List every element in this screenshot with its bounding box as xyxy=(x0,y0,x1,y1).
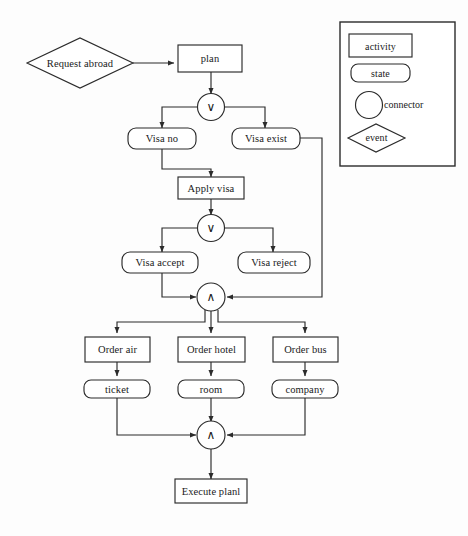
edge-company-to-and2 xyxy=(227,398,305,435)
edge-or2-to-visareject xyxy=(225,228,273,252)
edge-and1-to-orderair xyxy=(117,310,205,333)
shape-company[interactable] xyxy=(272,380,338,398)
shape-and-join-2[interactable] xyxy=(197,421,225,449)
edge-or2-to-visaaccept xyxy=(162,228,197,252)
shape-and-join-1[interactable] xyxy=(197,283,225,311)
flowchart-canvas xyxy=(0,0,468,536)
shape-visa-accept[interactable] xyxy=(122,252,198,273)
shape-plan[interactable] xyxy=(178,45,242,72)
legend-shape-connector xyxy=(356,92,383,119)
shape-room[interactable] xyxy=(178,380,244,398)
shape-execute-plan[interactable] xyxy=(175,479,247,503)
shape-request-abroad[interactable] xyxy=(27,38,133,88)
edge-visano-to-applyvisa xyxy=(162,149,211,177)
shape-or-split-1[interactable] xyxy=(198,94,225,121)
shape-order-hotel[interactable] xyxy=(178,337,245,362)
edge-or1-to-visaexist xyxy=(225,107,265,128)
edge-ticket-to-and2 xyxy=(117,398,196,435)
edge-visaaccept-to-and1 xyxy=(162,273,196,297)
shape-visa-no[interactable] xyxy=(128,128,196,149)
shape-order-air[interactable] xyxy=(85,337,150,362)
shape-visa-reject[interactable] xyxy=(238,252,310,273)
shape-apply-visa[interactable] xyxy=(178,177,244,199)
legend-label-connector: connector xyxy=(384,99,423,110)
shape-visa-exist[interactable] xyxy=(232,128,300,149)
legend-panel xyxy=(340,22,455,166)
legend-shape-state xyxy=(351,64,410,82)
edge-or1-to-visano xyxy=(162,107,197,128)
shape-order-bus[interactable] xyxy=(273,337,338,362)
edge-and1-to-orderbus xyxy=(218,310,305,333)
shape-ticket[interactable] xyxy=(84,380,150,398)
legend-shape-activity xyxy=(349,34,412,57)
shape-or-split-2[interactable] xyxy=(198,215,225,242)
node-shape-group xyxy=(27,38,338,503)
